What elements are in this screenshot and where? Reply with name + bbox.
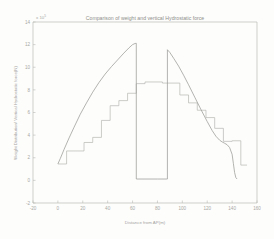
x-tick-label: 120 — [203, 206, 211, 211]
series-weight-distribution — [58, 82, 247, 165]
x-tick-label: 80 — [155, 206, 161, 211]
x-axis-ticks: -20020406080100120140160 — [30, 201, 262, 212]
chart-plot: -20020406080100120140160 -202468101214 x… — [0, 0, 274, 239]
x-axis-label: Distance from AP(m) — [125, 220, 166, 225]
x-tick-label: -20 — [30, 206, 37, 211]
x-tick-label: 0 — [57, 206, 60, 211]
y-tick-label: 10 — [25, 65, 31, 70]
figure-canvas: -20020406080100120140160 -202468101214 x… — [0, 0, 274, 239]
y-tick-label: 2 — [27, 155, 30, 160]
x-tick-label: 140 — [228, 206, 236, 211]
y-tick-label: 14 — [25, 20, 31, 25]
chart-title: Comparison of weight and vertical Hydros… — [86, 15, 205, 21]
y-tick-label: 12 — [25, 42, 31, 47]
y-tick-label: 6 — [27, 110, 30, 115]
y-axis-ticks: -202468101214 — [25, 20, 36, 206]
x-tick-label: 20 — [80, 206, 86, 211]
y-axis-label: Weight Distribution/ Vertical Hydrostati… — [13, 66, 18, 160]
x-tick-label: 160 — [253, 206, 261, 211]
y-tick-label: 8 — [27, 88, 30, 93]
y-tick-label: 4 — [27, 133, 30, 138]
axes-frame — [33, 22, 257, 203]
x-tick-label: 40 — [105, 206, 111, 211]
y-axis-exponent: x 105 — [36, 14, 46, 20]
x-tick-label: 60 — [130, 206, 136, 211]
series-hydrostatic-force — [58, 43, 237, 179]
y-tick-label: -2 — [26, 201, 31, 206]
x-tick-label: 100 — [178, 206, 186, 211]
y-tick-label: 0 — [27, 178, 30, 183]
